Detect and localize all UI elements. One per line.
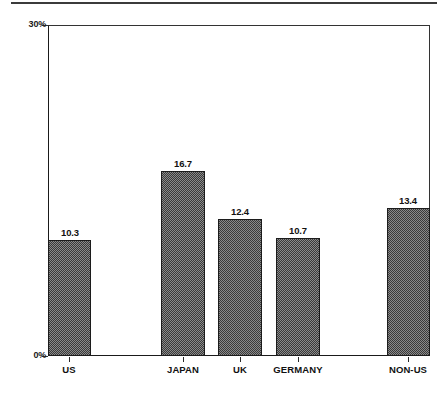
bar-germany xyxy=(276,238,320,356)
x-axis-label-uk: UK xyxy=(210,364,270,375)
bar-value-label: 12.4 xyxy=(210,206,270,217)
bar-value-label: 16.7 xyxy=(153,158,213,169)
bar-us xyxy=(48,240,91,356)
bar-value-label: 10.3 xyxy=(40,227,100,238)
x-axis-label-us: US xyxy=(39,364,99,375)
bar-value-label: 10.7 xyxy=(268,225,328,236)
bar-chart-figure: 30% 0% 10.3US16.7JAPAN12.4UK10.7GERMANY1… xyxy=(0,0,445,397)
x-axis-tick xyxy=(240,357,241,362)
x-axis-tick xyxy=(298,357,299,362)
bar-non-us xyxy=(387,208,430,356)
bars-layer: 10.3US16.7JAPAN12.4UK10.7GERMANY13.4NON-… xyxy=(0,0,445,397)
bar-japan xyxy=(161,171,205,356)
x-axis-label-non-us: NON-US xyxy=(378,364,438,375)
x-axis-tick xyxy=(183,357,184,362)
x-axis-tick xyxy=(69,357,70,362)
bar-value-label: 13.4 xyxy=(378,195,438,206)
x-axis-tick xyxy=(408,357,409,362)
x-axis-label-japan: JAPAN xyxy=(153,364,213,375)
bar-uk xyxy=(218,219,262,356)
x-axis-label-germany: GERMANY xyxy=(268,364,328,375)
